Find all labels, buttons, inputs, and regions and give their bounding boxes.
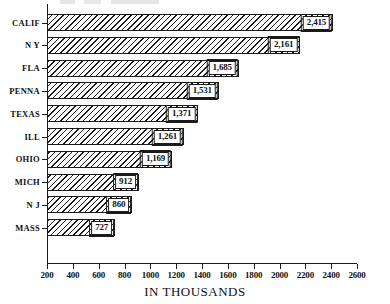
category-label: ILL <box>24 132 40 142</box>
bar-value-label: 2,161 <box>270 38 297 52</box>
x-axis-tick-label: 200 <box>41 270 54 280</box>
category-label: TEXAS <box>10 109 40 119</box>
bar-value-label: 1,685 <box>209 61 236 75</box>
y-axis-tick <box>42 114 47 115</box>
bar-value-label: 912 <box>115 175 136 189</box>
x-axis-title: IN THOUSANDS <box>0 284 390 300</box>
bar-value-label: 1,261 <box>154 130 181 144</box>
x-axis-tick-label: 1800 <box>245 270 262 280</box>
bar <box>47 37 300 54</box>
x-axis-tick-label: 2200 <box>297 270 314 280</box>
x-axis-tick <box>99 264 100 269</box>
x-axis-tick <box>202 264 203 269</box>
y-axis-tick <box>42 182 47 183</box>
x-axis-tick <box>280 264 281 269</box>
bar-fill <box>47 14 333 31</box>
x-axis-tick-label: 2400 <box>323 270 340 280</box>
y-axis-tick <box>42 45 47 46</box>
chart-title-remnant <box>60 0 230 4</box>
category-label: MICH <box>15 177 40 187</box>
x-axis-tick-label: 2000 <box>271 270 288 280</box>
y-axis-tick <box>42 91 47 92</box>
category-label: FLA <box>22 63 40 73</box>
x-axis-tick <box>176 264 177 269</box>
x-axis-tick-label: 1400 <box>193 270 210 280</box>
y-axis-tick <box>42 159 47 160</box>
x-axis-tick <box>228 264 229 269</box>
bar-value-label: 727 <box>91 221 112 235</box>
x-axis-tick <box>331 264 332 269</box>
bar-fill <box>47 37 300 54</box>
category-label: CALIF <box>12 18 40 28</box>
x-axis-tick-label: 1600 <box>219 270 236 280</box>
bar-value-label: 860 <box>108 198 129 212</box>
bar-value-label: 1,371 <box>168 107 195 121</box>
bar-value-label: 2,415 <box>303 16 330 30</box>
x-axis-tick-label: 2600 <box>348 270 365 280</box>
x-axis-tick <box>150 264 151 269</box>
x-axis-tick <box>73 264 74 269</box>
x-axis-tick <box>47 264 48 269</box>
x-axis-tick-label: 600 <box>92 270 105 280</box>
x-axis-tick-label: 800 <box>118 270 131 280</box>
bar-value-label: 1,169 <box>142 152 169 166</box>
x-axis-tick-label: 1000 <box>142 270 159 280</box>
bar-chart: 2004006008001000120014001600180020002200… <box>0 0 390 304</box>
category-label: OHIO <box>16 154 40 164</box>
x-axis-tick-label: 1200 <box>168 270 185 280</box>
bar-value-label: 1,531 <box>189 84 216 98</box>
bar <box>47 14 333 31</box>
y-axis-tick <box>42 205 47 206</box>
x-axis-tick <box>305 264 306 269</box>
y-axis-tick <box>42 23 47 24</box>
category-label: N J <box>27 200 40 210</box>
x-axis-tick <box>254 264 255 269</box>
x-axis-tick <box>357 264 358 269</box>
category-label: N Y <box>25 40 40 50</box>
x-axis-tick <box>125 264 126 269</box>
y-axis-tick <box>42 137 47 138</box>
y-axis-tick <box>42 68 47 69</box>
y-axis-tick <box>42 228 47 229</box>
category-label: PENNA <box>9 86 40 96</box>
x-axis-tick-label: 400 <box>66 270 79 280</box>
category-label: MASS <box>15 223 40 233</box>
